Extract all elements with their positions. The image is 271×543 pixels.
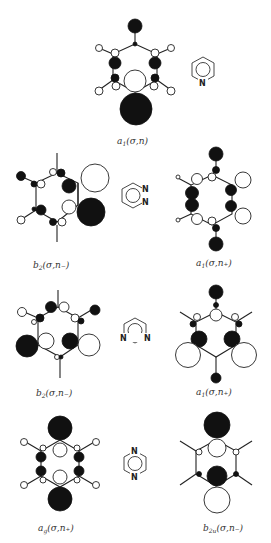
orbital-label-pyridine-a1: a1(σ,n) (117, 136, 149, 147)
orbital-diagram-pyrazine-b2u (180, 412, 252, 513)
svg-text:N: N (131, 473, 138, 482)
pyridazine-structure: N N (122, 183, 152, 208)
orbital-diagram-pyridazine-a1 (176, 147, 251, 251)
orbital-diagram-pyrazine-ag (21, 416, 100, 511)
pyrimidine-structure: N N (118, 318, 152, 343)
orbital-label-pyrimidine-a1: a1(σ,n₊) (196, 387, 232, 398)
orbital-diagram-pyrimidine-a1 (176, 285, 257, 383)
orbital-diagram-pyrimidine-b2 (16, 290, 100, 378)
svg-text:N: N (131, 447, 138, 456)
orbital-label-pyridazine-b2: b2(σ,n₋) (33, 260, 70, 271)
orbital-label-pyrazine-ag: ag(σ,n₊) (38, 523, 74, 535)
orbital-label-pyrazine-b2u: b2u(σ,n₋) (203, 523, 244, 534)
svg-text:N: N (142, 185, 149, 194)
pyrazine-structure: N N (124, 446, 146, 482)
orbital-figure: a1(σ,n) N b2(σ,n₋) N N (0, 0, 271, 543)
svg-text:N: N (199, 79, 206, 88)
pyridine-structure: N (192, 57, 214, 88)
orbital-label-pyridazine-a1: a1(σ,n₊) (196, 258, 232, 269)
svg-text:N: N (142, 198, 149, 207)
orbital-label-pyrimidine-b2: b2(σ,n₋) (36, 388, 73, 399)
svg-text:N: N (120, 334, 127, 343)
svg-text:N: N (144, 334, 151, 343)
orbital-diagram-pyridazine-b2 (17, 153, 110, 242)
orbital-diagram-pyridine-a1 (95, 19, 175, 125)
